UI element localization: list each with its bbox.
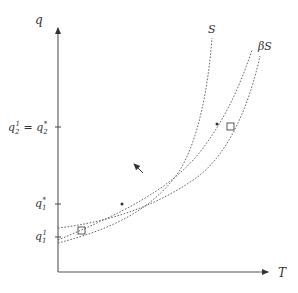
tick-label-q1-star: q1* — [35, 196, 47, 212]
curve-middle — [58, 50, 252, 240]
curve-beta-s — [58, 56, 260, 228]
intersection-dot-low — [121, 203, 124, 206]
square-marker-high — [227, 123, 234, 130]
direction-arrow-icon — [134, 164, 143, 173]
curve-s — [58, 38, 212, 243]
y-axis-label: q — [35, 13, 43, 27]
svg-text:q1*: q1* — [35, 196, 47, 212]
square-marker-low — [78, 227, 85, 234]
x-axis-label: T — [278, 266, 287, 280]
svg-text:q11: q11 — [35, 229, 47, 245]
diagram-canvas: q T q21 = q2* q1* q11 S βS — [0, 0, 298, 293]
tick-label-q2: q21 = q2* — [8, 120, 48, 136]
curve-label-s: S — [208, 23, 216, 36]
curve-label-beta-s: βS — [257, 40, 272, 53]
tick-label-q1-1: q11 — [35, 229, 47, 245]
intersection-dot-high — [216, 123, 219, 126]
svg-text:q21 = q2*: q21 = q2* — [8, 120, 48, 136]
